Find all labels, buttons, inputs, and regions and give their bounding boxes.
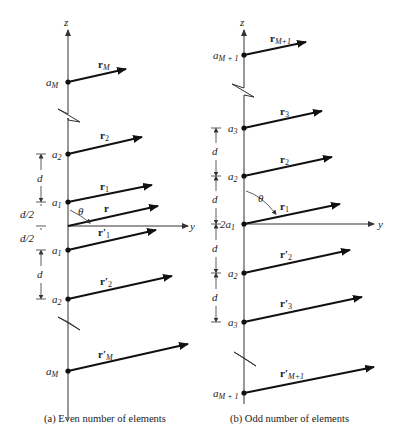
vector-rM: [68, 69, 126, 82]
svg-text:d: d: [212, 145, 218, 157]
axis-break-upper: [232, 84, 254, 97]
caption-a: (a) Even number of elements: [44, 413, 166, 425]
vector-r3-prime: [244, 297, 362, 322]
element-label: a1: [52, 244, 62, 258]
element-label: a2: [228, 170, 238, 184]
z-axis-label: z: [63, 16, 69, 28]
vector-label: r1: [280, 200, 289, 214]
axis-break-lower: [58, 310, 80, 330]
vector-r1: [244, 204, 340, 224]
svg-text:d: d: [37, 172, 43, 184]
element-label: aM + 1: [213, 387, 239, 401]
vector-label: r′2: [280, 248, 292, 262]
vector-label: r′3: [280, 297, 292, 311]
array-diagram: z y aM rM a2 r2 a1 r1 r θ a1 r′1 a2: [0, 0, 398, 431]
vector-rM-prime: [68, 344, 188, 371]
element-label: aM + 1: [213, 49, 239, 63]
element-label: a1: [52, 196, 62, 210]
element-label: 2a1: [220, 218, 235, 232]
vector-label: r1: [100, 180, 109, 194]
svg-text:d/2: d/2: [20, 208, 35, 220]
vector-label: r′M+1: [280, 367, 304, 381]
svg-text:d: d: [212, 291, 218, 303]
vector-rM1-prime: [244, 367, 374, 393]
vector-label: r3: [280, 105, 289, 119]
theta-label: θ: [78, 205, 84, 217]
svg-text:d: d: [37, 268, 43, 280]
vector-label: rM: [98, 58, 111, 72]
svg-text:d/2: d/2: [20, 232, 35, 244]
caption-b: (b) Odd number of elements: [230, 413, 349, 425]
z-axis-label: z: [239, 16, 245, 28]
vector-label: r2: [280, 153, 289, 167]
element-label: a2: [228, 267, 238, 281]
vector-label: r′2: [100, 275, 112, 289]
axis-break-upper: [58, 109, 80, 122]
vector-r1-prime: [68, 230, 156, 250]
vector-r2-prime: [244, 250, 350, 273]
y-axis-label: y: [377, 218, 383, 230]
panel-even-elements: z y aM rM a2 r2 a1 r1 r θ a1 r′1 a2: [20, 16, 195, 425]
element-label: a3: [228, 316, 238, 330]
element-label: a3: [228, 122, 238, 136]
vector-label: r: [104, 202, 109, 214]
vector-label: r2: [100, 129, 109, 143]
vector-r1: [68, 185, 152, 202]
svg-text:d: d: [212, 242, 218, 254]
spacing-dimensions: d d/2 d/2 d: [20, 154, 46, 299]
vector-label: r′1: [98, 226, 110, 240]
svg-text:d: d: [212, 193, 218, 205]
vector-label: rM+1: [270, 32, 291, 46]
vector-label: r′M: [98, 348, 114, 362]
element-label: a2: [52, 293, 62, 307]
element-label: aM: [46, 76, 60, 90]
axis-break-lower: [234, 346, 256, 366]
theta-label: θ: [258, 192, 264, 204]
vector-r2-prime: [68, 276, 172, 299]
element-label: aM: [46, 365, 60, 379]
y-axis-label: y: [189, 220, 195, 232]
panel-odd-elements: z y aM + 1 rM+1 a3 r3 a2 r2 2a1 r1 θ a2 …: [211, 16, 383, 425]
element-label: a2: [52, 148, 62, 162]
